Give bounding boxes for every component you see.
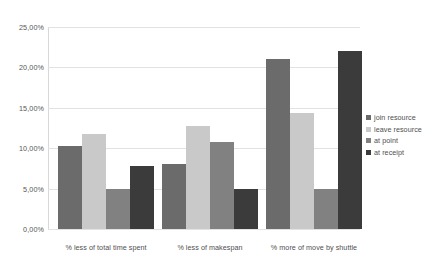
y-axis-line [48,27,49,230]
legend-item[interactable]: at receipt [366,147,446,158]
x-axis-category-label: % less of total time spent [65,243,146,252]
bar [58,146,82,229]
legend-label: at receipt [374,148,404,157]
bar-group [266,27,362,229]
bar-chart: 0,00%5,00%10,00%15,00%20,00%25,00% % les… [0,0,447,271]
y-axis-tick-label: 10,00% [19,144,44,153]
bar [314,189,338,229]
bar [130,166,154,229]
bar-group [58,27,154,229]
bar [234,189,258,229]
plot-area [48,27,360,230]
legend-label: leave resource [374,125,422,134]
legend-item[interactable]: at point [366,135,446,146]
bar [162,164,186,229]
y-axis-tick-labels: 0,00%5,00%10,00%15,00%20,00%25,00% [8,0,44,271]
x-axis-category-labels: % less of total time spent% less of make… [48,243,360,259]
x-axis-category-label: % more of move by shuttle [271,243,357,252]
y-axis-tick-label: 20,00% [19,63,44,72]
bar [186,126,210,229]
legend-swatch-icon [366,150,371,155]
bar [290,113,314,229]
bar [266,59,290,229]
chart-legend: join resourceleave resourceat pointat re… [366,112,446,158]
bar-group [162,27,258,229]
x-axis-category-label: % less of makespan [177,243,242,252]
y-axis-tick-label: 25,00% [19,23,44,32]
bar [210,142,234,229]
gridline [48,229,360,230]
legend-label: join resource [374,113,416,122]
bar [338,51,362,229]
legend-swatch-icon [366,127,371,132]
legend-item[interactable]: leave resource [366,124,446,135]
legend-item[interactable]: join resource [366,112,446,123]
y-axis-tick-label: 15,00% [19,103,44,112]
legend-label: at point [374,136,398,145]
y-axis-tick-label: 5,00% [23,184,44,193]
y-axis-tick-label: 0,00% [23,225,44,234]
legend-swatch-icon [366,138,371,143]
bar [106,189,130,229]
legend-swatch-icon [366,115,371,120]
bar [82,134,106,229]
